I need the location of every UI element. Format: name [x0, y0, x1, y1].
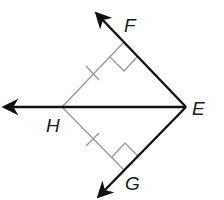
segment-hf	[62, 43, 123, 107]
label-e: E	[192, 98, 205, 119]
label-g: G	[125, 173, 140, 194]
ray-ef	[97, 14, 186, 107]
right-angle-marker-g	[112, 143, 138, 157]
label-f: F	[124, 15, 137, 36]
tick-mark-hg	[86, 133, 99, 146]
ray-eg	[99, 107, 186, 196]
right-angle-marker-f	[110, 57, 137, 71]
tick-mark-hf	[86, 66, 99, 80]
label-h: H	[46, 115, 60, 136]
angle-bisector-diagram: F E H G	[0, 0, 224, 200]
